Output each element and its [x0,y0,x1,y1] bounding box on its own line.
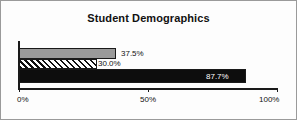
x-axis-tick-50 [148,88,149,92]
bar-row: 30.0% [19,59,278,69]
chart-container: Student Demographics 37.5% 30.0% 87.7% 0… [0,0,297,120]
bar-value-label: 87.7% [206,73,229,81]
x-axis-label-100: 100% [259,96,279,104]
x-axis-tick-100 [277,88,278,92]
x-axis-label-0: 0% [17,96,29,104]
bar-value-label: 30.0% [98,60,121,68]
chart-title: Student Demographics [1,12,296,24]
bar-row: 37.5% [19,48,278,59]
bar-series-2[interactable] [19,59,97,69]
x-axis-label-50: 50% [140,96,156,104]
plot-area: 37.5% 30.0% 87.7% 0% 50% 100% [19,41,278,91]
bar-row: 87.7% [19,69,278,83]
x-axis-tick-0 [19,88,20,92]
bar-value-label: 37.5% [121,50,144,58]
bar-series-1[interactable] [19,48,116,59]
